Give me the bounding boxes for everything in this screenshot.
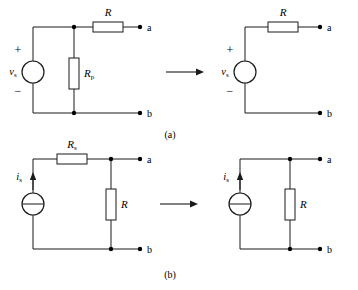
circuit-figure: + − vs Rp R a b xyxy=(0,0,358,290)
resistor-rs-b-left xyxy=(57,154,87,164)
current-source-label-b-right: is xyxy=(223,171,229,184)
circuit-diagram-svg: + − vs Rp R a b xyxy=(0,0,358,290)
terminal-label-b-left-bottom: b xyxy=(147,244,152,255)
resistor-r-b-left xyxy=(106,189,116,220)
current-arrow-head-b-left xyxy=(30,172,36,180)
resistor-r-label-a-right: R xyxy=(279,6,287,18)
current-source-label-sub-b-right: s xyxy=(226,176,229,184)
resistor-r-a-left xyxy=(93,22,123,32)
part-b-right-circuit: is R a b xyxy=(223,154,332,255)
transform-arrow-b-head xyxy=(190,201,198,208)
terminal-dot-a-right-top xyxy=(318,25,322,29)
resistor-rp-label-sub-a-left: p xyxy=(91,73,95,81)
part-b-left-circuit: is Rs R a b xyxy=(16,138,152,255)
polarity-plus-a-left: + xyxy=(15,43,22,57)
junction-dot-a-left-bottom xyxy=(72,111,76,115)
terminal-dot-a-right-bottom xyxy=(318,111,322,115)
voltage-source-symbol-a-left xyxy=(22,61,44,83)
voltage-source-label-a-left: vs xyxy=(9,66,17,79)
voltage-source-label-sub-a-right: s xyxy=(226,71,229,79)
polarity-minus-a-left: − xyxy=(15,84,22,98)
current-source-label-sub-b-left: s xyxy=(19,176,22,184)
transform-arrow-b xyxy=(160,201,198,208)
terminal-label-b-right-bottom: b xyxy=(327,244,332,255)
terminal-label-a-right-bottom: b xyxy=(327,108,332,119)
resistor-rp-label-a-left: Rp xyxy=(83,67,95,81)
terminal-label-b-left-top: a xyxy=(147,154,152,165)
terminal-label-a-left-top: a xyxy=(147,22,152,33)
caption-a: (a) xyxy=(164,129,175,141)
transform-arrow-a xyxy=(166,69,204,76)
caption-b: (b) xyxy=(164,269,176,281)
terminal-dot-b-left-bottom xyxy=(138,247,142,251)
junction-dot-b-right-top xyxy=(288,157,292,161)
resistor-r-label-a-left: R xyxy=(104,6,112,18)
junction-dot-b-left-bottom xyxy=(109,247,113,251)
voltage-source-label-a-right: vs xyxy=(221,66,229,79)
resistor-rp-a-left xyxy=(69,58,79,89)
terminal-dot-b-right-bottom xyxy=(318,247,322,251)
junction-dot-b-right-bottom xyxy=(288,247,292,251)
terminal-dot-b-right-top xyxy=(318,157,322,161)
junction-dot-a-left-top xyxy=(72,25,76,29)
terminal-label-a-right-top: a xyxy=(327,22,332,33)
voltage-source-symbol-a-right xyxy=(234,61,256,83)
resistor-r-b-right xyxy=(285,189,295,220)
polarity-plus-a-right: + xyxy=(227,43,234,57)
part-a-right-circuit: + − vs R a b xyxy=(221,6,332,119)
part-a-left-circuit: + − vs Rp R a b xyxy=(9,6,152,119)
terminal-label-b-right-top: a xyxy=(327,154,332,165)
voltage-source-label-sub-a-left: s xyxy=(14,71,17,79)
terminal-dot-a-left-top xyxy=(138,25,142,29)
current-arrow-head-b-right xyxy=(237,172,243,180)
resistor-rs-label-sub-b-left: s xyxy=(74,144,77,152)
resistor-r-a-right xyxy=(268,22,298,32)
current-source-label-b-left: is xyxy=(16,171,22,184)
terminal-dot-a-left-bottom xyxy=(138,111,142,115)
resistor-r-label-b-left: R xyxy=(120,198,128,210)
resistor-rs-label-b-left: Rs xyxy=(66,138,77,152)
resistor-r-label-b-right: R xyxy=(299,198,307,210)
transform-arrow-a-head xyxy=(196,69,204,76)
terminal-dot-b-left-top xyxy=(138,157,142,161)
terminal-label-a-left-bottom: b xyxy=(147,108,152,119)
junction-dot-b-left-top xyxy=(109,157,113,161)
polarity-minus-a-right: − xyxy=(227,84,234,98)
